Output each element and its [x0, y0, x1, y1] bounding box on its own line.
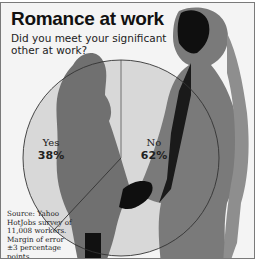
slice-label-no: No 62% — [134, 137, 174, 162]
slice-category: Yes — [31, 137, 71, 149]
slice-label-yes: Yes 38% — [31, 137, 71, 162]
source-note: Source: Yahoo HotJobs survey of 11,008 w… — [7, 210, 73, 259]
slice-value: 62% — [134, 149, 174, 162]
chart-title: Romance at work — [11, 8, 164, 30]
slice-value: 38% — [31, 149, 71, 162]
slice-category: No — [134, 137, 174, 149]
infographic-frame: Romance at work Did you meet your signif… — [0, 2, 255, 259]
chart-subtitle: Did you meet your significant other at w… — [11, 32, 191, 56]
